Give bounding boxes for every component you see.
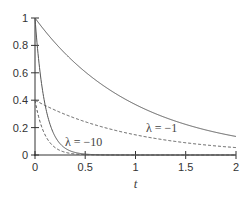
x-tick-label: 0.5	[78, 161, 93, 173]
x-tick-labels: 0 0.5 1 1.5 2	[32, 161, 239, 173]
curve-lambda-minus-1-solid	[35, 18, 236, 136]
x-tick-label: 1.5	[178, 161, 193, 173]
x-tick-label: 0	[32, 161, 38, 173]
annotation-lambda-minus-10: λ = −10	[65, 135, 102, 149]
annotation-lambda-minus-1: λ = −1	[146, 121, 177, 135]
decay-chart: 0 0.2 0.4 0.6 0.8 1 0 0.5 1 1.5 2 t λ = …	[0, 0, 248, 199]
x-tick-label: 2	[233, 161, 239, 173]
axes	[31, 18, 236, 159]
y-tick-labels: 0 0.2 0.4 0.6 0.8 1	[13, 12, 28, 161]
x-tick-label: 1	[132, 161, 138, 173]
y-tick-label: 0.2	[13, 122, 28, 134]
y-tick-label: 0.8	[13, 39, 28, 51]
y-tick-label: 1	[22, 12, 28, 24]
x-axis-label: t	[134, 176, 138, 191]
y-tick-label: 0.4	[13, 94, 28, 106]
y-tick-label: 0	[22, 149, 28, 161]
y-tick-label: 0.6	[13, 67, 28, 79]
